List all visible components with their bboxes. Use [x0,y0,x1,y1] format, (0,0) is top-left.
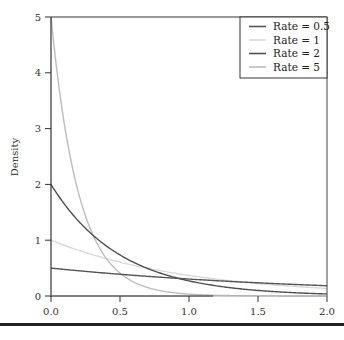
y-tick-label: 1 [35,235,41,246]
x-tick-label: 1.0 [181,306,197,317]
legend: Rate = 0.5Rate = 1Rate = 2Rate = 5 [240,17,330,78]
x-tick-label: 1.5 [250,306,266,317]
curve-rate-0-5 [51,268,327,286]
y-axis-title: Density [9,137,20,176]
y-axis-ticks: 012345 [35,12,51,302]
legend-label: Rate = 5 [273,61,320,73]
x-tick-label: 2.0 [319,306,335,317]
x-tick-label: 0.0 [43,306,59,317]
y-tick-label: 0 [35,291,41,302]
y-tick-label: 5 [35,12,41,23]
legend-label: Rate = 0.5 [273,20,330,32]
exponential-density-chart: 012345 0.00.51.01.52.0 Density Rate = 0.… [0,0,344,340]
x-axis-ticks: 0.00.51.01.52.0 [43,296,335,317]
legend-label: Rate = 1 [273,34,320,46]
y-tick-label: 4 [35,67,41,78]
curve-rate-2 [51,184,327,294]
legend-label: Rate = 2 [273,47,320,59]
y-tick-label: 3 [35,123,41,134]
y-tick-label: 2 [35,179,41,190]
page-divider-rule [0,323,344,326]
x-tick-label: 0.5 [112,306,128,317]
